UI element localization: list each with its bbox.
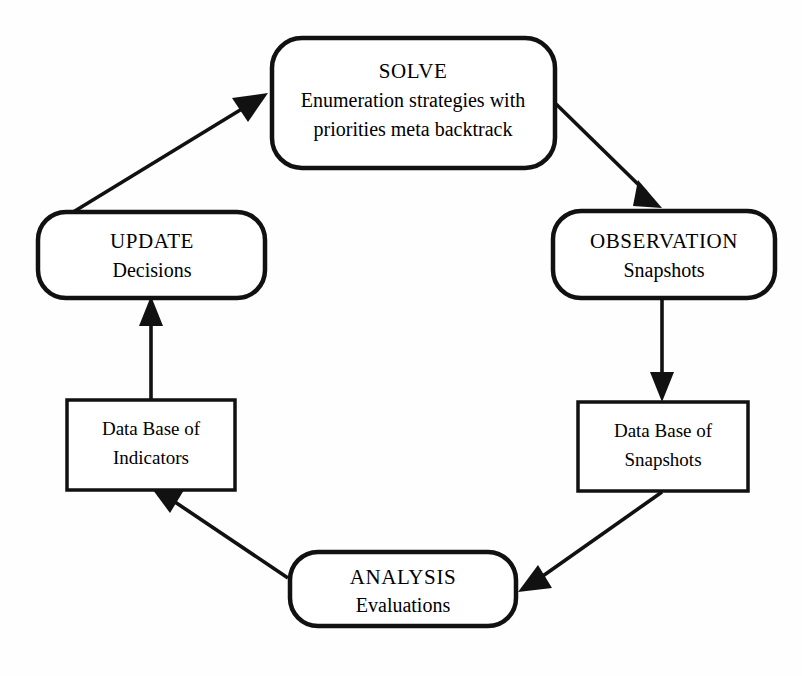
update-line2: Decisions: [113, 259, 192, 281]
update-box[interactable]: [38, 212, 265, 298]
node-db-indicators[interactable]: Data Base of Indicators: [67, 400, 235, 490]
db-snapshots-box[interactable]: [578, 402, 748, 491]
flowchart-svg: SOLVE Enumeration strategies with priori…: [0, 0, 802, 676]
observation-line2: Snapshots: [623, 259, 704, 282]
edge-db-snapshots-to-analysis: [518, 492, 662, 592]
diagram-canvas: SOLVE Enumeration strategies with priori…: [0, 0, 802, 676]
node-update[interactable]: UPDATE Decisions: [38, 212, 265, 298]
update-heading: UPDATE: [110, 229, 194, 253]
db-snapshots-line2: Snapshots: [624, 449, 701, 470]
edge-analysis-to-db-indicators: [150, 486, 288, 578]
db-snapshots-line1: Data Base of: [614, 420, 713, 441]
edge-solve-to-observation: [556, 104, 662, 208]
solve-line3: priorities meta backtrack: [314, 118, 513, 141]
db-indicators-box[interactable]: [67, 400, 235, 490]
db-indicators-line2: Indicators: [113, 447, 189, 468]
node-analysis[interactable]: ANALYSIS Evaluations: [290, 552, 516, 626]
node-db-snapshots[interactable]: Data Base of Snapshots: [578, 402, 748, 491]
analysis-heading: ANALYSIS: [350, 565, 457, 589]
node-observation[interactable]: OBSERVATION Snapshots: [553, 211, 775, 298]
edge-observation-to-db-snapshots: [650, 298, 674, 402]
solve-line2: Enumeration strategies with: [301, 89, 525, 112]
node-solve[interactable]: SOLVE Enumeration strategies with priori…: [272, 38, 555, 168]
db-indicators-line1: Data Base of: [102, 418, 201, 439]
observation-box[interactable]: [553, 211, 775, 298]
observation-heading: OBSERVATION: [590, 229, 738, 253]
analysis-line2: Evaluations: [356, 594, 451, 616]
solve-heading: SOLVE: [379, 59, 448, 83]
edge-update-to-solve: [47, 93, 268, 228]
